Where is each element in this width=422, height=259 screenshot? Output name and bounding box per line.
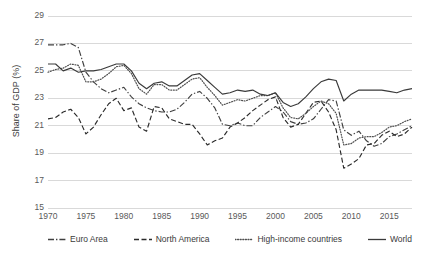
- x-tick-label: 1980: [107, 211, 141, 221]
- dash-dot-swatch: [48, 235, 66, 244]
- chart-legend: Euro AreaNorth AmericaHigh-income countr…: [48, 231, 412, 247]
- series-line-high-income-countries: [48, 64, 412, 145]
- x-tick-label: 2000: [259, 211, 293, 221]
- legend-label: High-income countries: [257, 234, 342, 244]
- x-tick-label: 2015: [372, 211, 406, 221]
- line-chart: Share of GDP (%) 2927252321191715 197019…: [0, 0, 422, 259]
- y-tick-label: 23: [20, 92, 44, 102]
- gridlines: [48, 16, 412, 208]
- legend-item-high-income-countries[interactable]: High-income countries: [235, 234, 342, 244]
- y-tick-label: 17: [20, 175, 44, 185]
- x-tick-label: 2005: [296, 211, 330, 221]
- y-tick-label: 27: [20, 37, 44, 47]
- dashed-swatch: [134, 235, 152, 244]
- x-tick-label: 1995: [221, 211, 255, 221]
- y-tick-label: 19: [20, 147, 44, 157]
- x-tick-label: 1990: [183, 211, 217, 221]
- legend-label: World: [390, 234, 412, 244]
- legend-item-euro-area[interactable]: Euro Area: [48, 234, 108, 244]
- x-tick-label: 1985: [145, 211, 179, 221]
- x-tick-label: 2010: [334, 211, 368, 221]
- legend-label: North America: [156, 234, 210, 244]
- y-tick-label: 21: [20, 120, 44, 130]
- legend-label: Euro Area: [70, 234, 108, 244]
- x-tick-label: 1970: [31, 211, 65, 221]
- dotted-swatch: [235, 235, 253, 244]
- series-lines: [48, 43, 412, 168]
- x-tick-label: 1975: [69, 211, 103, 221]
- solid-swatch: [368, 235, 386, 244]
- legend-item-world[interactable]: World: [368, 234, 412, 244]
- series-line-euro-area: [48, 43, 412, 146]
- y-tick-label: 29: [20, 10, 44, 20]
- legend-item-north-america[interactable]: North America: [134, 234, 210, 244]
- y-tick-label: 25: [20, 65, 44, 75]
